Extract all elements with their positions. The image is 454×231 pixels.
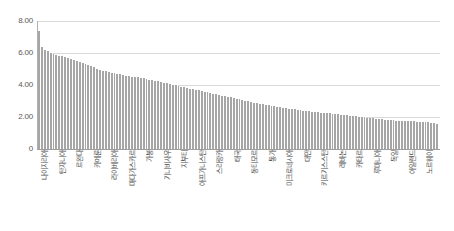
- y-tick-label-6: 6.00: [18, 48, 33, 57]
- bar-series: [38, 21, 440, 149]
- x-tick-label: 대만: [305, 150, 312, 162]
- bar: [436, 124, 439, 149]
- x-tick-label: 나이지리아: [42, 150, 49, 180]
- y-tick-label-8: 8.00: [18, 16, 33, 25]
- x-tick-label: 아일랜드: [410, 150, 417, 174]
- x-tick-label: 태국: [235, 150, 242, 162]
- y-tick-label-0: 0: [29, 144, 33, 153]
- x-tick-label: 동티모르: [252, 150, 259, 174]
- x-tick-label: 가봉: [147, 150, 154, 162]
- x-axis-labels: 나이지리아탄자니아르완다카메룬라이베리아마다가스카르가봉기니비사우지부티아프가니…: [38, 150, 440, 231]
- x-tick-label: 키르기스스탄: [322, 150, 329, 186]
- x-tick-label: 라이베리아: [112, 150, 119, 180]
- x-tick-label: 카메룬: [95, 150, 102, 168]
- x-tick-label: 스리랑카: [217, 150, 224, 174]
- bar-chart: 8.00 6.00 4.00 2.00 0 나이지리아탄자니아르완다카메룬라이베…: [0, 0, 454, 231]
- y-tick-label-4: 4.00: [18, 80, 33, 89]
- x-tick-label: 독일: [392, 150, 399, 162]
- x-tick-label: 통가: [270, 150, 277, 162]
- x-tick-label: 아프가니스탄: [200, 150, 207, 186]
- y-tick-label-2: 2.00: [18, 112, 33, 121]
- x-tick-label: 카타르: [357, 150, 364, 168]
- x-tick-label: 노르웨이: [427, 150, 434, 174]
- y-axis-labels: 8.00 6.00 4.00 2.00 0: [0, 0, 35, 231]
- x-tick-label: 마다가스카르: [130, 150, 137, 186]
- x-tick-label: 루마니아: [375, 150, 382, 174]
- x-tick-label: 미크로네시아: [287, 150, 294, 186]
- x-tick-label: 탄자니아: [60, 150, 67, 174]
- x-tick-label: 지부티: [182, 150, 189, 168]
- x-tick-label: 기니비사우: [165, 150, 172, 180]
- x-tick-label: 레바논: [340, 150, 347, 168]
- x-tick-label: 르완다: [77, 150, 84, 168]
